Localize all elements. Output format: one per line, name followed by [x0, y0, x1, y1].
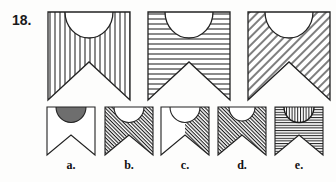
stem-figure-2 [144, 8, 236, 104]
option-a-svg[interactable] [44, 104, 98, 158]
option-c-svg[interactable] [158, 104, 212, 158]
option-b[interactable] [102, 104, 156, 158]
stem-figure-1-svg [44, 8, 136, 104]
option-e-label[interactable]: e. [272, 158, 326, 173]
option-d[interactable] [215, 104, 269, 158]
question-number: 18. [12, 12, 31, 28]
option-a[interactable] [44, 104, 98, 158]
option-b-svg[interactable] [102, 104, 156, 158]
option-a-label[interactable]: a. [44, 158, 98, 173]
question-figure: 18. [0, 0, 336, 182]
stem-figure-3-svg [244, 8, 336, 104]
stem-figure-2-svg [144, 8, 236, 104]
stem-sequence [44, 8, 336, 104]
stem-figure-1 [44, 8, 136, 104]
option-labels: a. b. c. d. e. [40, 158, 336, 180]
option-b-label[interactable]: b. [102, 158, 156, 173]
answer-options [40, 104, 336, 160]
option-c[interactable] [158, 104, 212, 158]
option-e[interactable] [272, 104, 326, 158]
option-e-svg[interactable] [272, 104, 326, 158]
option-d-svg[interactable] [215, 104, 269, 158]
stem-figure-3 [244, 8, 336, 104]
option-c-label[interactable]: c. [158, 158, 212, 173]
option-d-label[interactable]: d. [215, 158, 269, 173]
